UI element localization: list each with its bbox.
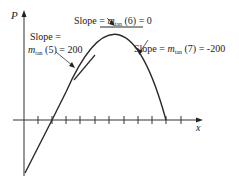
slope-diagram: P x Slope = mtan (5) = 200 Slope = mtan …	[0, 0, 239, 185]
y-axis-arrow-icon	[22, 10, 27, 17]
arrow-head-left-icon	[69, 62, 75, 68]
annotation-left-line2: mtan (5) = 200	[28, 44, 82, 56]
tangent-line-5	[74, 55, 95, 80]
annotation-top: Slope = mtan (6) = 0	[74, 15, 152, 27]
x-axis-label: x	[195, 122, 201, 133]
annotation-right: Slope = mtan (7) = -200	[134, 43, 225, 55]
y-axis-label: P	[10, 9, 18, 21]
profit-curve	[25, 34, 166, 173]
annotation-left-line1: Slope =	[30, 31, 61, 42]
